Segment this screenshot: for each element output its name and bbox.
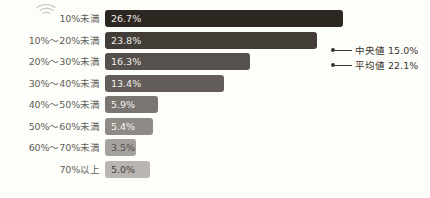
bar-value-label: 23.8% [111, 32, 141, 49]
bar-value-label: 5.9% [111, 96, 135, 113]
bar-value-label: 13.4% [111, 75, 141, 92]
bar-category-label: 30%〜40%未満 [0, 74, 100, 93]
bar-row: 60%〜70%未満3.5% [0, 138, 430, 157]
bar-row: 10%未満26.7% [0, 9, 430, 28]
bar-value-label: 5.4% [111, 118, 135, 135]
bar-value-label: 3.5% [111, 139, 135, 156]
bar-value-label: 16.3% [111, 53, 141, 70]
bar-category-label: 20%〜30%未満 [0, 52, 100, 71]
bar-category-label: 10%〜20%未満 [0, 31, 100, 50]
horizontal-bar-chart: 中央値 15.0% 平均値 22.1% 10%未満26.7%10%〜20%未満2… [0, 0, 430, 198]
bar-category-label: 50%〜60%未満 [0, 117, 100, 136]
bar-category-label: 60%〜70%未満 [0, 138, 100, 157]
bar-row: 10%〜20%未満23.8% [0, 31, 430, 50]
bar-row: 30%〜40%未満13.4% [0, 74, 430, 93]
bar-value-label: 26.7% [111, 10, 141, 27]
bar-value-label: 5.0% [111, 161, 135, 178]
bar-row: 50%〜60%未満5.4% [0, 117, 430, 136]
bar-row: 70%以上5.0% [0, 160, 430, 179]
bar-category-label: 10%未満 [0, 9, 100, 28]
bar-category-label: 40%〜50%未満 [0, 95, 100, 114]
bar-row: 20%〜30%未満16.3% [0, 52, 430, 71]
bar-row: 40%〜50%未満5.9% [0, 95, 430, 114]
bar-category-label: 70%以上 [0, 160, 100, 179]
